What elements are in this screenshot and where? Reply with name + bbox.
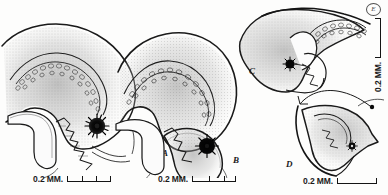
scale-bar-a: 0.2 MM. xyxy=(33,174,111,184)
scale-bar-a-bar xyxy=(67,176,111,182)
illustration-plate: A xyxy=(0,0,388,195)
panel-b-pigment-spot xyxy=(196,135,219,158)
scale-tick xyxy=(82,176,83,181)
panel-c-figure xyxy=(232,2,372,102)
scale-bar-c: 0.2 MM. xyxy=(373,18,383,92)
panel-c-pigment-spot xyxy=(283,57,297,71)
corner-circled-mark: E xyxy=(366,3,381,16)
scale-bar-d-bar xyxy=(337,178,377,184)
scale-bar-d-label: 0.2 MM. xyxy=(303,176,333,186)
panel-a-pigment-spot xyxy=(85,114,109,138)
scale-bar-b-bar xyxy=(192,176,236,182)
panel-d-figure xyxy=(292,98,388,180)
panel-a-lower-process xyxy=(8,112,56,169)
scale-bar-a-label: 0.2 MM. xyxy=(33,174,63,184)
scale-bar-c-label: 0.2 MM. xyxy=(373,62,383,92)
panel-b-label: B xyxy=(233,155,239,165)
scale-tick xyxy=(224,176,225,181)
scale-tick xyxy=(96,176,97,181)
scale-bar-d: 0.2 MM. xyxy=(303,176,377,186)
scale-bar-b: 0.2 MM. xyxy=(158,174,236,184)
panel-cd-connector xyxy=(296,88,376,110)
scale-bar-b-label: 0.2 MM. xyxy=(158,174,188,184)
panel-c-label: C xyxy=(249,66,255,76)
scale-tick xyxy=(209,176,210,181)
panel-b-lower-process xyxy=(116,120,164,175)
panel-d-label: D xyxy=(286,159,293,169)
scale-bar-c-bar xyxy=(375,18,381,58)
